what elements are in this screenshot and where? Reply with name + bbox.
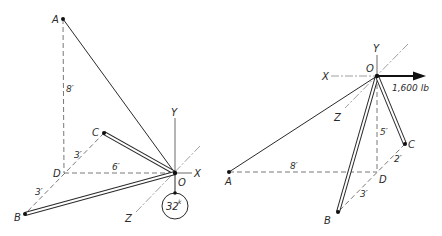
- right-label-B: B: [324, 215, 331, 226]
- right-axis-label-Y: Y: [373, 43, 380, 54]
- right-dim-DB: 3′: [360, 189, 368, 199]
- right-label-A: A: [224, 176, 232, 187]
- right-point-C: [403, 142, 407, 146]
- left-point-O: [173, 171, 177, 175]
- left-load-value: 32: [166, 201, 179, 212]
- left-dim-DO: 6′: [112, 162, 120, 172]
- left-dim-AD: 8′: [66, 84, 74, 94]
- right-axis-label-Z: Z: [333, 112, 342, 123]
- right-force-arrow-icon: [413, 72, 426, 81]
- left-dim-DC: 3′: [74, 150, 82, 160]
- left-axis-label-Y: Y: [171, 107, 178, 118]
- right-label-O: O: [366, 63, 374, 74]
- right-point-A: [227, 170, 231, 174]
- left-point-B: [23, 212, 27, 216]
- left-dim-DB: 3′: [35, 187, 43, 197]
- right-force-label: 1,600 lb: [392, 83, 429, 93]
- right-label-D: D: [379, 174, 387, 185]
- left-label-D: D: [53, 168, 61, 179]
- right-axis-label-X: X: [321, 71, 330, 82]
- right-dim-OD: 5′: [380, 127, 388, 137]
- left-label-B: B: [14, 212, 21, 223]
- left-axis-label-X: X: [193, 168, 202, 179]
- right-point-O: [375, 74, 379, 78]
- right-dim-AD: 8′: [290, 161, 298, 171]
- left-label-C: C: [92, 127, 99, 138]
- left-label-O: O: [178, 177, 186, 188]
- right-figure: 1,600 lb A B C D O Y X Z 8′ 5′ 2′ 3′: [224, 43, 429, 226]
- left-load-unit: k: [178, 198, 182, 205]
- left-dim-line-AD: [63, 19, 64, 173]
- left-point-A: [61, 17, 65, 21]
- left-label-A: A: [51, 14, 59, 25]
- right-label-C: C: [408, 139, 415, 150]
- right-dim-DC: 2′: [394, 154, 402, 164]
- right-point-B: [336, 210, 340, 214]
- left-axis-label-Z: Z: [124, 213, 133, 224]
- left-point-C: [102, 131, 106, 135]
- diagram-canvas: 32 k A C D B O Y X Z 8′ 3′ 3′ 6′: [0, 0, 442, 236]
- left-figure: 32 k A C D B O Y X Z 8′ 3′ 3′ 6′: [14, 14, 202, 224]
- left-load-attach-dot: [173, 191, 177, 195]
